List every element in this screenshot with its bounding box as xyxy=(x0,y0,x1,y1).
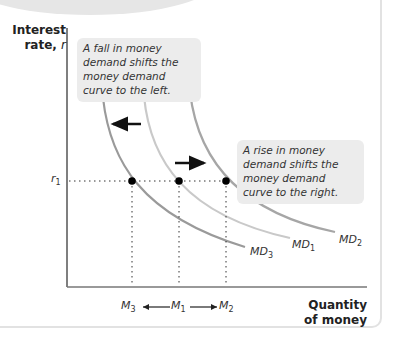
annotation-fall-in-demand: A fall in money demand shifts the money … xyxy=(77,38,201,102)
md3-label: MD3 xyxy=(250,245,273,260)
m2-tick-label: M2 xyxy=(219,299,234,314)
md1-label: MD1 xyxy=(292,238,315,253)
m3-tick-label: M3 xyxy=(121,299,136,314)
m1-tick-label: M1 xyxy=(171,299,186,314)
r1-tick-label: r1 xyxy=(51,172,61,187)
md2-label: MD2 xyxy=(339,233,362,248)
point-md1-r1 xyxy=(175,177,183,185)
annotation-rise-in-demand: A rise in money demand shifts the money … xyxy=(237,140,364,204)
x-axis-label: Quantity of money xyxy=(300,298,367,328)
y-axis-label: Interest rate, r xyxy=(8,23,66,53)
point-md2-r1 xyxy=(222,177,230,185)
point-md3-r1 xyxy=(128,177,136,185)
